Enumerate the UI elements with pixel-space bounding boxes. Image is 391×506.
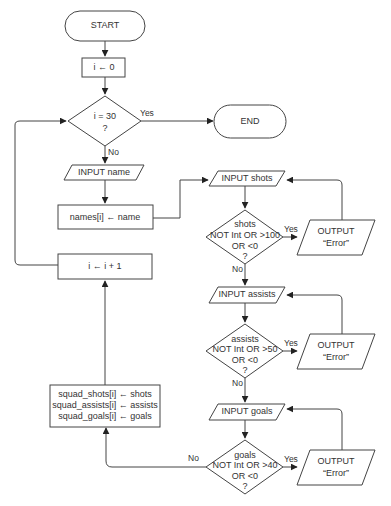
start-terminal: START [65,11,145,41]
svg-text:NOT Int OR >100: NOT Int OR >100 [210,230,280,240]
svg-text:goals: goals [234,450,256,460]
error-output-goals: OUTPUT “Error” [297,450,375,485]
svg-text:squad_shots[i] ← shots: squad_shots[i] ← shots [58,389,152,399]
svg-text:OR <0: OR <0 [232,355,258,365]
flowchart: START i ← 0 i = 30 ? Yes END No INPUT na… [0,0,391,506]
svg-text:INPUT name: INPUT name [78,167,130,177]
error-output-assists: OUTPUT “Error” [297,334,375,369]
yes-label: Yes [284,454,298,464]
svg-text:“Error”: “Error” [323,352,349,362]
svg-text:?: ? [242,251,247,261]
svg-text:i = 30: i = 30 [94,111,116,121]
goals-decision: goals NOT Int OR >40 OR <0 ? [206,440,283,494]
svg-text:NOT Int OR >50: NOT Int OR >50 [212,344,277,354]
svg-text:OR <0: OR <0 [232,241,258,251]
svg-text:?: ? [102,123,107,133]
loop-decision: i = 30 ? [68,96,141,146]
assign-name: names[i] ← name [58,205,153,229]
no-label: No [232,264,243,274]
no-label: No [108,147,119,157]
svg-text:i ← 0: i ← 0 [93,62,114,72]
increment-process: i ← i + 1 [58,254,152,279]
svg-text:OR <0: OR <0 [232,471,258,481]
svg-text:OUTPUT: OUTPUT [318,340,356,350]
input-name: INPUT name [64,165,144,180]
input-goals: INPUT goals [209,404,285,420]
init-process: i ← 0 [82,58,125,77]
svg-text:INPUT shots: INPUT shots [222,173,273,183]
svg-text:names[i] ← name: names[i] ← name [70,212,141,222]
error-output-shots: OUTPUT “Error” [297,220,375,255]
no-label: No [232,378,243,388]
svg-text:?: ? [242,481,247,491]
svg-text:squad_goals[i] ← goals: squad_goals[i] ← goals [58,411,152,421]
svg-text:assists: assists [231,334,259,344]
no-label: No [188,453,199,463]
svg-text:i ← i + 1: i ← i + 1 [88,261,121,271]
svg-text:“Error”: “Error” [323,468,349,478]
input-assists: INPUT assists [209,287,285,303]
svg-text:OUTPUT: OUTPUT [318,226,356,236]
svg-text:END: END [240,116,260,126]
svg-text:“Error”: “Error” [323,238,349,248]
svg-text:INPUT assists: INPUT assists [219,289,276,299]
svg-text:NOT Int OR >40: NOT Int OR >40 [212,460,277,470]
yes-label: Yes [284,224,298,234]
end-terminal: END [214,105,286,138]
svg-text:?: ? [242,365,247,375]
assists-decision: assists NOT Int OR >50 OR <0 ? [206,324,283,378]
svg-text:INPUT goals: INPUT goals [222,406,273,416]
svg-text:OUTPUT: OUTPUT [318,456,356,466]
yes-label: Yes [140,108,154,118]
input-shots: INPUT shots [209,171,285,186]
yes-label: Yes [284,338,298,348]
shots-decision: shots NOT Int OR >100 OR <0 ? [206,210,283,264]
svg-text:START: START [91,20,120,30]
svg-text:shots: shots [234,219,256,229]
store-process: squad_shots[i] ← shots squad_assists[i] … [50,385,160,427]
svg-text:squad_assists[i] ← assists: squad_assists[i] ← assists [52,400,158,410]
